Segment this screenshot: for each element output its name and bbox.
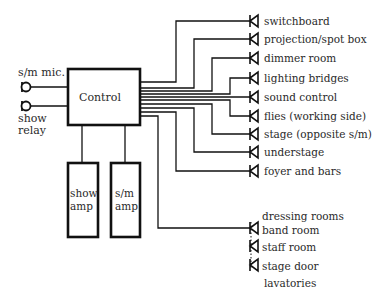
output-wires (140, 21, 250, 228)
paging-system-diagram: s/m mic. show relay Control show amp s/m… (0, 0, 377, 308)
sm-amp-label-1: s/m (115, 187, 134, 199)
backstage-label-stage-door: stage door (262, 260, 320, 272)
sm-mic-label: s/m mic. (18, 66, 65, 79)
output-label-foyer: foyer and bars (264, 165, 341, 177)
output-label-lighting-bridges: lighting bridges (264, 72, 349, 84)
output-label-understage: understage (264, 146, 324, 158)
show-relay-label-2: relay (18, 124, 47, 137)
output-label-flies: flies (working side) (264, 110, 366, 122)
backstage-label-dressing-rooms: dressing rooms (262, 210, 344, 222)
output-label-dimmer-room: dimmer room (264, 52, 336, 64)
output-label-sound-control: sound control (264, 91, 338, 103)
show-amp-label-1: show (70, 187, 97, 199)
backstage-label-lavatories: lavatories (264, 277, 316, 289)
show-relay-icon (22, 101, 31, 111)
output-label-projection: projection/spot box (264, 33, 367, 45)
control-label: Control (79, 91, 121, 104)
output-label-stage: stage (opposite s/m) (264, 128, 372, 140)
sm-mic-icon (22, 82, 31, 92)
backstage-label-band-room: band room (262, 224, 319, 236)
backstage-speaker-icons (250, 222, 258, 271)
backstage-label-staff-room: staff room (262, 241, 316, 253)
output-label-switchboard: switchboard (264, 15, 330, 27)
speaker-icons (250, 15, 258, 177)
sm-amp-label-2: amp (115, 200, 138, 212)
show-amp-label-2: amp (70, 200, 93, 212)
